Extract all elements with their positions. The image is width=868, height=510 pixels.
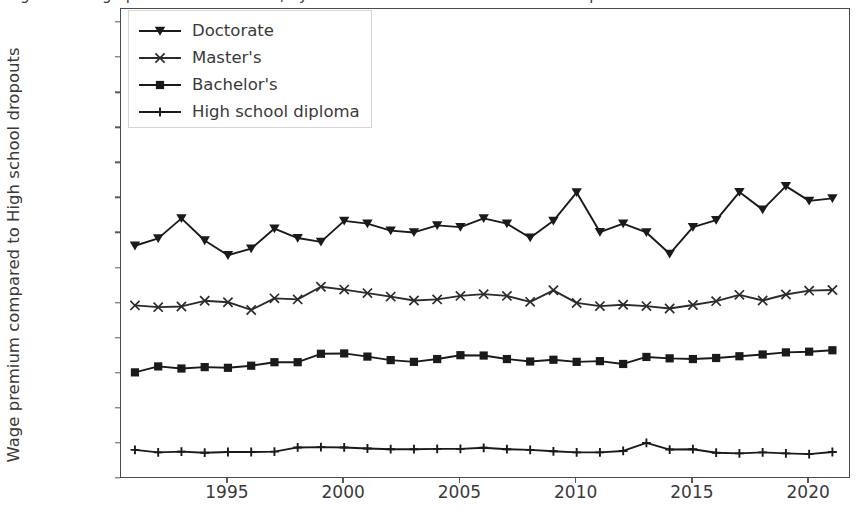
data-point-marker [619, 447, 628, 456]
x-tick-label: 2020 [787, 484, 830, 501]
legend-item-bachelor-s[interactable]: Bachelor's [137, 71, 363, 98]
data-point-marker [224, 448, 233, 457]
series-doctorate [130, 182, 838, 260]
legend-swatch-x-icon [137, 49, 183, 67]
data-point-marker [525, 234, 535, 243]
legend-item-doctorate[interactable]: Doctorate [137, 17, 363, 44]
x-tick-label: 2010 [554, 484, 597, 501]
legend-item-label: Master's [192, 48, 261, 67]
data-point-marker [479, 443, 488, 452]
data-point-marker [805, 348, 813, 356]
data-point-marker [572, 448, 581, 457]
data-point-marker [502, 219, 512, 228]
chart-legend: DoctorateMaster'sBachelor'sHigh school d… [128, 10, 372, 128]
data-point-marker [387, 356, 395, 364]
data-point-marker [224, 364, 232, 372]
data-point-marker [480, 351, 488, 359]
data-point-marker [317, 350, 325, 358]
data-point-marker [526, 445, 535, 454]
data-point-marker [619, 360, 627, 368]
legend-swatch-square-icon [137, 76, 183, 94]
x-tick-label: 2015 [670, 484, 713, 501]
data-point-marker [689, 445, 698, 454]
data-point-marker [386, 445, 395, 454]
chart-title: Figure 3. Wage premiums over time, by ed… [8, 0, 868, 4]
legend-swatch-plus-icon [137, 103, 183, 121]
series-high-school-diploma [131, 438, 837, 458]
data-point-marker [735, 352, 743, 360]
data-point-marker [247, 448, 256, 457]
data-point-marker [526, 357, 534, 365]
data-point-marker [596, 357, 604, 365]
x-tick-label: 1995 [205, 484, 248, 501]
data-point-marker [805, 450, 814, 459]
data-point-marker [456, 351, 464, 359]
data-point-marker [130, 242, 140, 251]
data-point-marker [573, 358, 581, 366]
x-tick-label: 2005 [438, 484, 481, 501]
data-point-marker [340, 443, 349, 452]
data-point-marker [363, 352, 371, 360]
data-point-marker [177, 447, 186, 456]
legend-item-high-school-diploma[interactable]: High school diploma [137, 98, 363, 125]
data-point-marker [759, 350, 767, 358]
data-point-marker [410, 358, 418, 366]
data-point-marker [410, 445, 419, 454]
data-point-marker [247, 362, 255, 370]
legend-item-label: High school diploma [192, 102, 360, 121]
data-point-marker [456, 444, 465, 453]
legend-swatch-triangle-down-icon [137, 22, 183, 40]
data-point-marker [177, 364, 185, 372]
data-point-marker [758, 448, 767, 457]
legend-item-label: Doctorate [192, 21, 274, 40]
data-point-marker [293, 443, 302, 452]
y-axis-label: Wage premium compared to High school dro… [0, 0, 26, 510]
data-point-marker [735, 449, 744, 458]
data-point-marker [642, 438, 651, 447]
data-point-marker [294, 358, 302, 366]
series-bachelor-s [131, 346, 837, 376]
data-point-marker [549, 356, 557, 364]
data-point-marker [131, 445, 140, 454]
data-point-marker [156, 107, 165, 116]
data-point-marker [665, 445, 674, 454]
data-point-marker [664, 250, 674, 259]
data-point-marker [782, 348, 790, 356]
legend-item-master-s[interactable]: Master's [137, 44, 363, 71]
data-point-marker [712, 354, 720, 362]
data-point-marker [503, 445, 512, 454]
series-master-s [130, 282, 837, 314]
legend-item-label: Bachelor's [192, 75, 278, 94]
data-point-marker [503, 355, 511, 363]
data-point-marker [317, 443, 326, 452]
data-point-marker [689, 355, 697, 363]
data-point-marker [200, 448, 209, 457]
data-point-marker [782, 449, 791, 458]
data-point-marker [666, 354, 674, 362]
series-line [135, 287, 832, 310]
data-point-marker [828, 448, 837, 457]
data-point-marker [549, 447, 558, 456]
data-point-marker [154, 448, 163, 457]
data-point-marker [363, 444, 372, 453]
data-point-marker [618, 219, 628, 228]
data-point-marker [156, 80, 164, 88]
data-point-marker [270, 447, 279, 456]
data-point-marker [712, 448, 721, 457]
data-point-marker [828, 346, 836, 354]
data-point-marker [433, 355, 441, 363]
data-point-marker [595, 228, 605, 237]
data-point-marker [340, 349, 348, 357]
data-point-marker [223, 251, 233, 260]
data-point-marker [131, 368, 139, 376]
x-tick-label: 2000 [322, 484, 365, 501]
data-point-marker [154, 362, 162, 370]
data-point-marker [247, 305, 256, 314]
data-point-marker [433, 444, 442, 453]
data-point-marker [201, 363, 209, 371]
data-point-marker [596, 448, 605, 457]
data-point-marker [642, 353, 650, 361]
chart-figure: Figure 3. Wage premiums over time, by ed… [0, 0, 868, 510]
data-point-marker [549, 286, 558, 295]
data-point-marker [757, 205, 767, 214]
